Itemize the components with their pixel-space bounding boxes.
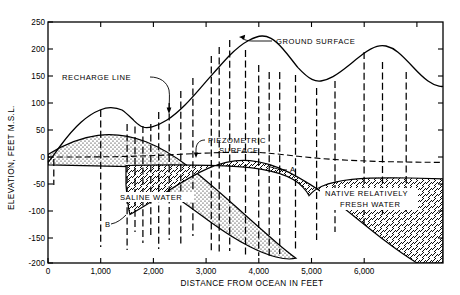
x-tick-label: 2,000 (143, 267, 164, 276)
x-tick-label: 4,000 (249, 267, 270, 276)
ground-surface-label: GROUND SURFACE (276, 37, 355, 46)
x-axis-title: DISTANCE FROM OCEAN IN FEET (180, 279, 323, 288)
y-tick-label: -50 (33, 180, 45, 189)
y-tick-label: 150 (31, 72, 45, 81)
y-tick-label: -150 (29, 234, 46, 243)
y-tick-label: -100 (29, 207, 46, 216)
hydrogeologic-cross-section-figure: 250 200 150 100 50 0 -50 -100 -150 -200 … (0, 0, 460, 295)
saline-water-label: SALINE WATER (120, 193, 182, 202)
piezometric-surface-label-line1: PIEZOMETRIC (208, 136, 266, 145)
fresh-water-label-line2: FRESH WATER (340, 200, 400, 209)
fresh-water-label-group: NATIVE RELATIVELY FRESH WATER (320, 188, 418, 210)
x-tick-label: 5,000 (301, 267, 322, 276)
x-tick-label: 6,000 (354, 267, 375, 276)
x-tick-label: 0 (46, 267, 51, 276)
saline-water-label-group: SALINE WATER (116, 192, 194, 202)
y-tick-label: -200 (29, 259, 46, 268)
x-tick-label: 1,000 (90, 267, 111, 276)
y-tick-label: 100 (31, 99, 45, 108)
unit-b-label: B (105, 220, 110, 229)
y-tick-label: 200 (31, 45, 45, 54)
piezometric-surface-label-line2: SURFACE (219, 146, 259, 155)
y-tick-label: 50 (36, 126, 46, 135)
x-tick-label: 3,000 (196, 267, 217, 276)
cross-section-chart: 250 200 150 100 50 0 -50 -100 -150 -200 … (0, 0, 460, 295)
y-tick-label: 250 (31, 18, 45, 27)
recharge-line-label: RECHARGE LINE (62, 73, 131, 82)
y-axis-title: ELEVATION, FEET M.S.L. (7, 105, 16, 210)
fresh-water-label-line1: NATIVE RELATIVELY (325, 189, 408, 198)
y-tick-label: 0 (40, 153, 45, 162)
